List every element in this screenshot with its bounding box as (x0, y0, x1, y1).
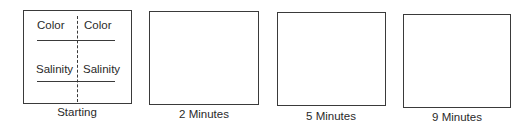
caption-9-minutes: 9 Minutes (397, 111, 517, 123)
caption-starting: Starting (17, 106, 137, 118)
right-salinity-underline (77, 81, 115, 82)
caption-2-minutes: 2 Minutes (144, 108, 264, 120)
panel-9-minutes (403, 14, 511, 108)
left-color-label: Color (37, 19, 64, 31)
caption-5-minutes: 5 Minutes (271, 110, 391, 122)
panel-5-minutes (277, 12, 386, 106)
center-divider-dashed (77, 16, 78, 102)
right-color-label: Color (84, 19, 111, 31)
left-salinity-underline (37, 81, 77, 82)
left-color-underline (37, 40, 77, 41)
panel-2-minutes (149, 11, 259, 105)
right-color-underline (77, 40, 115, 41)
left-salinity-label: Salinity (36, 63, 73, 75)
right-salinity-label: Salinity (83, 63, 120, 75)
